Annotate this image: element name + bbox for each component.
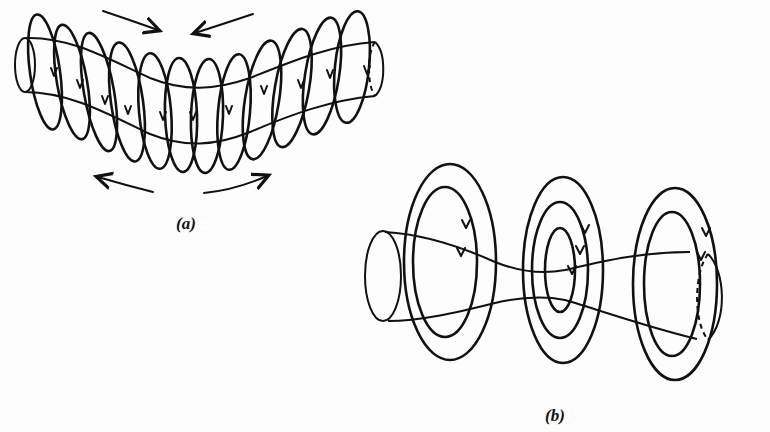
arrow-bottom-left	[98, 177, 153, 192]
panel-b-sausage-diagram	[365, 164, 722, 380]
arrow-top-right	[195, 14, 253, 33]
arrow-top-left	[103, 11, 158, 30]
tube-bottom-edge	[25, 92, 375, 144]
loop-direction-arrows	[51, 66, 370, 120]
ring-group-left	[404, 164, 496, 360]
tube-right-cap	[375, 42, 383, 96]
ring-group-right	[633, 188, 717, 380]
panel-b-label: (b)	[545, 406, 565, 426]
tube-left-cap	[365, 231, 401, 321]
panel-a-label: (a)	[176, 214, 196, 234]
figure: (a) (b)	[0, 0, 770, 432]
panel-a-kink-diagram	[15, 10, 383, 193]
pressure-arrows	[98, 11, 267, 193]
arrow-bottom-right	[204, 176, 267, 193]
field-loops	[22, 10, 375, 174]
diagram-canvas	[0, 0, 770, 432]
tube-right-cap	[708, 254, 722, 340]
